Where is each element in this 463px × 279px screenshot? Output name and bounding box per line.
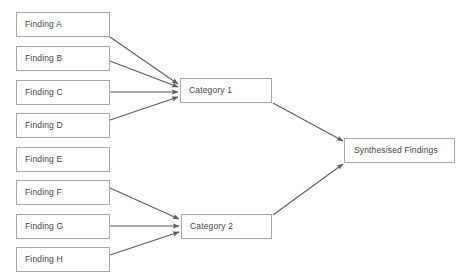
edge-arrow [110,97,178,120]
edge-arrow [110,188,179,219]
category-box-2[interactable]: Category 2 [181,214,272,239]
edge-arrow [273,164,343,215]
synthesised-findings-label: Synthesised Findings [354,146,438,155]
edge-arrow [273,103,343,141]
category-label-2: Category 2 [190,222,233,231]
finding-box-b[interactable]: Finding B [16,46,110,71]
finding-label-d: Finding D [25,121,63,130]
finding-box-c[interactable]: Finding C [16,80,110,105]
category-box-1[interactable]: Category 1 [180,78,272,103]
finding-box-e[interactable]: Finding E [16,147,110,172]
finding-box-f[interactable]: Finding F [16,180,110,205]
synthesised-findings-box[interactable]: Synthesised Findings [344,138,455,163]
finding-label-g: Finding G [25,222,63,231]
edge-arrow [110,37,178,84]
finding-box-g[interactable]: Finding G [16,214,110,239]
edge-arrow [110,232,179,255]
finding-box-a[interactable]: Finding A [16,12,110,37]
finding-label-c: Finding C [25,88,63,97]
finding-box-d[interactable]: Finding D [16,113,110,138]
finding-label-e: Finding E [25,155,62,164]
finding-label-h: Finding H [25,255,63,264]
finding-label-a: Finding A [25,20,62,29]
finding-label-f: Finding F [25,188,62,197]
finding-box-h[interactable]: Finding H [16,247,110,272]
diagram-canvas: Finding A Finding B Finding C Finding D … [0,0,463,279]
edge-arrow [110,61,178,87]
category-label-1: Category 1 [189,86,232,95]
finding-label-b: Finding B [25,54,62,63]
